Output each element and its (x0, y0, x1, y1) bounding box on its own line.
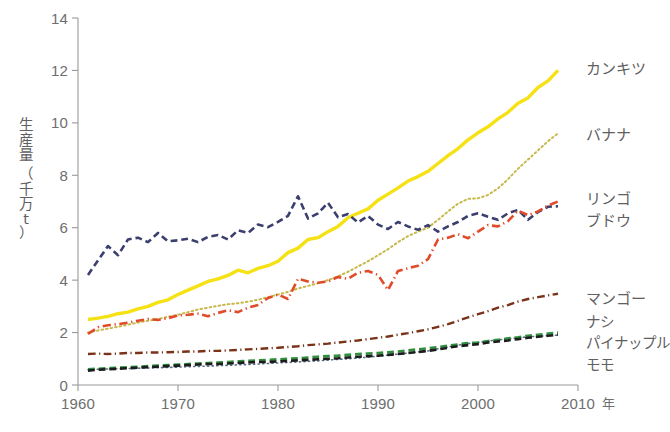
y-axis-ticks: 02468101214 (51, 10, 78, 394)
x-axis-unit-label: 年 (602, 396, 615, 411)
y-tick-label: 6 (59, 219, 68, 236)
x-tick-label: 2000 (461, 395, 495, 412)
y-tick-label: 8 (59, 167, 68, 184)
x-tick-label: 1960 (61, 395, 95, 412)
y-tick-label: 2 (59, 324, 68, 341)
y-tick-label: 14 (51, 10, 68, 27)
y-tick-label: 4 (59, 272, 68, 289)
x-tick-label: 2010 (561, 395, 595, 412)
series-line-3 (88, 202, 558, 334)
x-tick-label: 1970 (161, 395, 195, 412)
y-tick-label: 0 (59, 377, 68, 394)
x-tick-label: 1980 (261, 395, 295, 412)
y-tick-label: 10 (51, 114, 68, 131)
data-series-group (88, 70, 558, 370)
y-tick-label: 12 (51, 62, 68, 79)
x-axis-ticks: 196019701980199020002010 (61, 385, 595, 412)
x-tick-label: 1990 (361, 395, 395, 412)
series-line-6 (88, 333, 558, 370)
